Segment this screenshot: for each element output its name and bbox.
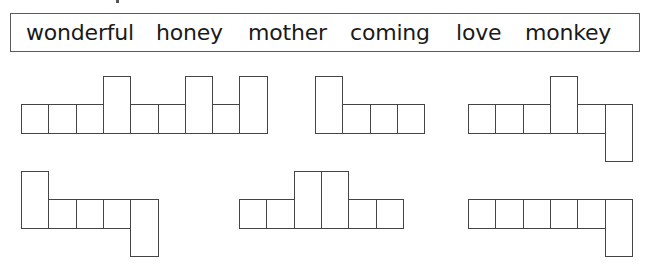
letter-box-short[interactable] — [523, 199, 551, 229]
letter-box-short[interactable] — [342, 104, 371, 134]
word-bank-word: honey — [156, 19, 223, 44]
letter-box-short[interactable] — [523, 104, 551, 134]
letter-box-short[interactable] — [495, 104, 524, 134]
word-bank-word: wonderful — [26, 19, 134, 44]
word-bank-word: mother — [248, 19, 327, 44]
letter-box-short[interactable] — [495, 199, 524, 229]
word-bank: wonderfulhoneymothercominglovemonkey — [10, 13, 640, 52]
letter-box-short[interactable] — [76, 199, 104, 229]
letter-box-tall[interactable] — [321, 171, 349, 229]
letter-box-short[interactable] — [103, 199, 131, 229]
letter-box-tall[interactable] — [294, 171, 322, 229]
letter-box-tall[interactable] — [550, 76, 578, 134]
letter-box-short[interactable] — [21, 104, 49, 134]
letter-box-short[interactable] — [550, 199, 578, 229]
letter-box-tall[interactable] — [21, 171, 49, 229]
letter-box-tall[interactable] — [103, 76, 131, 134]
letter-box-short[interactable] — [266, 199, 295, 229]
word-bank-word: coming — [350, 19, 430, 44]
letter-box-short[interactable] — [130, 104, 159, 134]
letter-box-tall[interactable] — [239, 76, 268, 134]
letter-box-descender[interactable] — [605, 199, 633, 257]
word-bank-word: love — [456, 19, 501, 44]
letter-box-short[interactable] — [76, 104, 104, 134]
letter-box-short[interactable] — [212, 104, 240, 134]
letter-box-tall[interactable] — [185, 76, 213, 134]
letter-box-short[interactable] — [468, 104, 496, 134]
letter-box-descender[interactable] — [130, 199, 159, 257]
letter-box-short[interactable] — [397, 104, 425, 134]
letter-box-short[interactable] — [577, 199, 606, 229]
letter-box-short[interactable] — [348, 199, 377, 229]
letter-box-short[interactable] — [239, 199, 267, 229]
word-bank-word: monkey — [525, 19, 611, 44]
letter-box-short[interactable] — [48, 199, 77, 229]
letter-box-short[interactable] — [376, 199, 404, 229]
letter-box-short[interactable] — [158, 104, 186, 134]
letter-box-short[interactable] — [370, 104, 398, 134]
letter-box-short[interactable] — [468, 199, 496, 229]
scan-artifact — [116, 0, 119, 3]
letter-box-tall[interactable] — [315, 76, 343, 134]
letter-box-short[interactable] — [577, 104, 606, 134]
letter-box-descender[interactable] — [605, 104, 633, 162]
letter-box-short[interactable] — [48, 104, 77, 134]
